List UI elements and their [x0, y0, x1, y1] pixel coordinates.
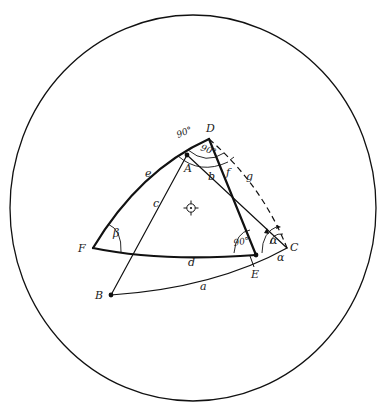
label-angle-D-inner: 90° [199, 142, 217, 157]
label-f: f [225, 166, 232, 179]
label-angle-C-outer: α [277, 251, 285, 264]
center-crosshair-icon [184, 201, 199, 216]
sphere-outline [10, 15, 376, 401]
arc-d [93, 248, 256, 257]
arc-e [93, 139, 209, 248]
label-angle-C-inner: α [270, 234, 278, 247]
label-B: B [94, 289, 103, 302]
point-A [185, 153, 190, 158]
label-E: E [250, 268, 259, 281]
label-F: F [77, 242, 86, 255]
label-a: a [200, 280, 207, 293]
label-C: C [290, 241, 299, 254]
angle-tick [230, 157, 234, 160]
label-angle-E: 90° [233, 235, 250, 248]
point-B [109, 293, 114, 298]
label-angle-D-outer: 90° [175, 125, 194, 140]
label-b: b [208, 170, 215, 183]
spherical-triangle-diagram: D A B C E F a b c d e f g 90° 90° 90° α … [0, 0, 383, 411]
label-g: g [246, 170, 253, 183]
point-E-dot [254, 253, 259, 258]
label-c: c [153, 197, 159, 210]
label-A: A [183, 162, 192, 175]
label-angle-F: β [112, 227, 119, 240]
label-d: d [188, 256, 195, 269]
label-e: e [145, 167, 152, 180]
label-D: D [205, 122, 215, 135]
